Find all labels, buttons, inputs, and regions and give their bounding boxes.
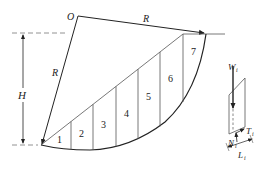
radius-top-label: R xyxy=(142,13,149,24)
slice-label-3: 3 xyxy=(101,119,106,130)
diagram-svg: H O R R 1 2 3 4 5 6 7 W i N xyxy=(0,0,269,172)
slice-label-6: 6 xyxy=(168,73,173,84)
slice-element xyxy=(229,78,245,134)
slice-label-2: 2 xyxy=(79,128,84,139)
radius-left-arrow xyxy=(42,16,78,144)
length-subscript: i xyxy=(244,155,246,161)
slope-face xyxy=(41,34,183,145)
normal-force-arrow xyxy=(236,133,237,142)
radius-left-label: R xyxy=(51,67,58,78)
slope-stability-diagram: H O R R 1 2 3 4 5 6 7 W i N xyxy=(0,0,269,172)
radius-top-arrow xyxy=(78,16,204,33)
weight-subscript: i xyxy=(236,67,238,73)
shear-subscript: i xyxy=(252,131,254,137)
slice-boundaries xyxy=(71,34,183,150)
slice-label-7: 7 xyxy=(191,46,196,57)
slice-label-1: 1 xyxy=(57,134,62,145)
center-label: O xyxy=(67,11,74,22)
slice-label-5: 5 xyxy=(146,91,151,102)
normal-label: N xyxy=(227,138,235,148)
slice-label-4: 4 xyxy=(124,108,129,119)
slip-circle-arc xyxy=(41,34,206,150)
height-label: H xyxy=(17,89,27,101)
length-label: L xyxy=(237,150,243,160)
